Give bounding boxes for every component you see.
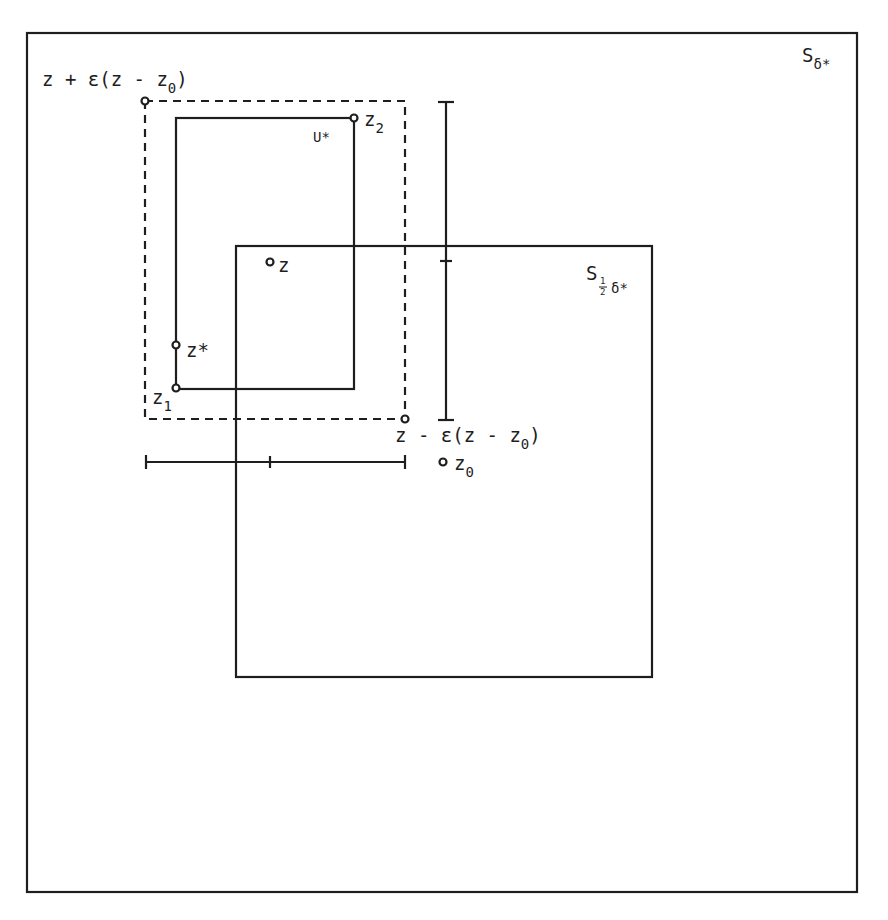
label-z: z xyxy=(278,254,289,276)
label-z1: z1 xyxy=(152,386,172,414)
label-bottom-right-corner: z - ε(z - z0) xyxy=(395,424,541,452)
horizontal-measure-bar xyxy=(146,455,405,469)
label-half-square-rest: δ* xyxy=(611,280,628,296)
label-z0: z0 xyxy=(454,452,474,480)
label-u-star: U* xyxy=(313,129,330,145)
point-z2 xyxy=(351,115,358,122)
label-top-left-corner: z + ε(z - z0) xyxy=(42,68,188,96)
diagram-canvas: z + ε(z - z0) Sδ* z2 U* z S 1 2 δ* z* z1… xyxy=(0,0,888,920)
point-top-left-corner xyxy=(142,98,149,105)
label-half-square-frac-num: 1 xyxy=(600,276,605,286)
point-z1 xyxy=(173,385,180,392)
label-z2: z2 xyxy=(364,108,384,136)
dashed-epsilon-box xyxy=(145,101,405,419)
vertical-measure-bar xyxy=(438,102,454,420)
point-z xyxy=(267,259,274,266)
label-half-square: S xyxy=(586,262,597,284)
label-outer-square: Sδ* xyxy=(802,44,830,72)
point-z-star xyxy=(173,342,180,349)
point-bottom-right-corner xyxy=(402,416,409,423)
label-half-square-frac-den: 2 xyxy=(600,287,605,297)
point-z0 xyxy=(440,459,447,466)
label-z-star: z* xyxy=(186,339,209,361)
